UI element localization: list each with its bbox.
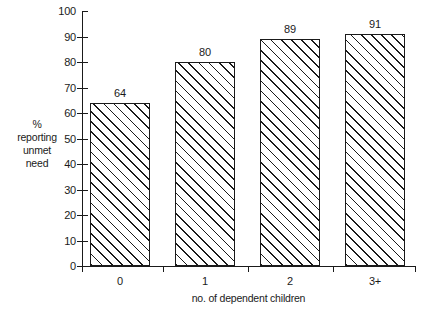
bar [345,34,405,266]
y-axis-title-line-2: reporting [0,131,74,144]
y-axis-tick-label: 20 [64,210,76,221]
y-axis-title: % reporting unmet need [0,118,74,170]
y-axis-tick-label: 10 [64,235,76,246]
x-axis-tick-mark [333,266,334,272]
bar-value-label: 80 [199,47,211,58]
y-axis-tick-label: 80 [64,57,76,68]
y-axis-title-line-3: unmet [0,144,74,157]
y-axis-tick-label: 90 [64,31,76,42]
bar-value-label: 89 [284,24,296,35]
bar [260,39,320,266]
plot-area: 64808991 [82,11,415,266]
y-axis-title-line-4: need [0,157,74,170]
x-axis-category-label: 2 [287,276,293,287]
x-axis-line [82,266,415,267]
y-axis-tick-label: 100 [58,6,76,17]
x-axis-tick-mark [415,266,416,272]
y-axis-tick-label: 70 [64,82,76,93]
x-axis-tick-mark [248,266,249,272]
x-axis-category-label: 1 [202,276,208,287]
x-axis-tick-mark [82,266,83,272]
x-axis-title: no. of dependent children [82,292,415,304]
bar [90,103,150,266]
y-axis-title-line-1: % [0,118,74,131]
y-axis-tick-label: 60 [64,108,76,119]
bar-chart: 0102030405060708090100 64808991 0123+ % … [0,0,423,315]
y-axis-tick-label: 30 [64,184,76,195]
bar-value-label: 91 [369,19,381,30]
bar-value-label: 64 [114,88,126,99]
x-axis-category-label: 0 [117,276,123,287]
bar [175,62,235,266]
x-axis-tick-mark [163,266,164,272]
y-axis-tick-label: 0 [70,261,76,272]
x-axis-category-label: 3+ [369,276,381,287]
